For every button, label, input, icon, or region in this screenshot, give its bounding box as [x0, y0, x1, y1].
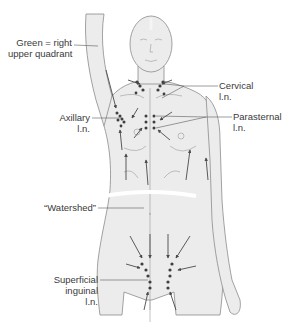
- label-axillary-ln: Axillary l.n.: [40, 112, 90, 134]
- label-watershed: “Watershed”: [30, 202, 96, 213]
- body-outline: [85, 14, 240, 315]
- label-cervical-ln: Cervical l.n.: [219, 80, 253, 102]
- label-superficial-inguinal-ln: Superficial inguinal l.n.: [40, 274, 98, 307]
- label-parasternal-ln: Parasternal l.n.: [233, 111, 282, 133]
- label-green-quadrant: Green = right upper quadrant: [8, 37, 72, 59]
